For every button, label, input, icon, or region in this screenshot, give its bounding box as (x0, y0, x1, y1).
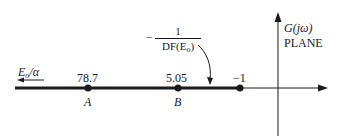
denominator-base: DF(E (162, 40, 186, 52)
point-minus-one-value: −1 (233, 72, 246, 84)
plane-label-function: G(jω) (284, 22, 312, 34)
point-a-marker (85, 85, 92, 92)
fraction-numerator: 1 (155, 25, 201, 39)
point-a-value: 78.7 (77, 72, 98, 84)
pointer-arrowhead-icon (207, 77, 213, 85)
point-b-name: B (174, 96, 181, 108)
describing-function-fraction: 1 DF(Eo) (155, 25, 201, 54)
real-axis-arrowhead-icon (318, 85, 328, 92)
imaginary-axis-arrowhead-icon (275, 12, 282, 22)
amplitude-direction-label: Eo/α (18, 66, 39, 80)
point-b-marker (175, 85, 182, 92)
nyquist-diagram: G(jω) PLANE Eo/α − 1 DF(Eo) 78.7 5.05 −1… (0, 0, 339, 139)
fraction-denominator: DF(Eo) (155, 39, 201, 54)
point-a-name: A (84, 96, 91, 108)
plane-label-text: PLANE (284, 37, 323, 49)
denominator-close: ) (190, 40, 194, 52)
point-minus-one-marker (237, 85, 244, 92)
amplitude-divisor: /α (29, 65, 39, 79)
fraction-minus-sign: − (146, 30, 153, 45)
point-b-value: 5.05 (166, 72, 187, 84)
